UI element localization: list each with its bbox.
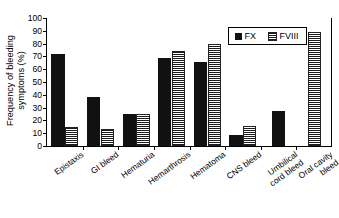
y-axis-tick: [43, 69, 47, 70]
legend: FX FVIII: [228, 27, 307, 45]
x-axis-label-line: Hematoma: [189, 150, 228, 182]
y-axis-tick: [43, 56, 47, 57]
x-axis-label-line: CNS bleed: [225, 150, 263, 182]
bar-fx-6: [272, 111, 285, 146]
x-axis-label-0: Epistaxis: [53, 150, 86, 177]
y-axis-tick: [43, 108, 47, 109]
bar-fviii-1: [101, 129, 114, 146]
y-axis-tick-label: 70: [32, 51, 42, 61]
x-axis-label-line: GI bleed: [90, 150, 121, 176]
bar-fx-1: [87, 97, 100, 146]
x-axis-label-5: CNS bleed: [225, 150, 263, 182]
x-axis-tick: [154, 146, 155, 150]
y-axis-tick-label: 10: [32, 128, 42, 138]
y-axis-title: Frequency of bleeding symptoms (%): [0, 0, 30, 160]
legend-label-fx: FX: [245, 31, 257, 41]
y-axis-tick-label: 80: [32, 39, 42, 49]
x-axis-label-6: Umbilicalcord bleed: [262, 150, 305, 189]
bar-fviii-2: [136, 114, 149, 146]
x-axis-label-4: Hematoma: [189, 150, 228, 182]
y-axis-tick: [43, 18, 47, 19]
y-axis-tick-label: 90: [32, 26, 42, 36]
checkerboard-swatch-icon: [268, 32, 277, 41]
y-axis-tick: [43, 133, 47, 134]
bar-fx-2: [123, 114, 136, 146]
solid-black-swatch-icon: [235, 33, 242, 40]
x-axis-tick: [118, 146, 119, 150]
x-axis-tick: [296, 146, 297, 150]
x-axis-label-7: Oral cavitybleed: [297, 150, 339, 189]
bar-chart: Frequency of bleeding symptoms (%) 01020…: [0, 0, 339, 218]
bar-fviii-7: [308, 32, 321, 146]
y-axis-tick-label: 100: [28, 13, 42, 23]
bar-fx-3: [158, 58, 171, 146]
bar-fviii-4: [208, 44, 221, 146]
y-axis-title-line-2: symptoms (%): [15, 35, 26, 126]
y-axis-tick-label: 60: [32, 64, 42, 74]
bar-fx-0: [51, 54, 64, 146]
bar-fviii-0: [65, 127, 78, 146]
y-axis-tick: [43, 120, 47, 121]
y-axis-tick: [43, 44, 47, 45]
x-axis-tick: [261, 146, 262, 150]
y-axis-tick-label: 20: [32, 115, 42, 125]
x-axis-tick: [225, 146, 226, 150]
x-axis-tick: [190, 146, 191, 150]
legend-entry-fx: FX: [235, 31, 256, 41]
bar-fviii-3: [172, 51, 185, 146]
bar-fx-5: [229, 135, 242, 146]
y-axis-tick: [43, 95, 47, 96]
bar-fx-4: [194, 62, 207, 146]
y-axis-title-line-1: Frequency of bleeding: [5, 35, 16, 126]
y-axis-tick-label: 40: [32, 90, 42, 100]
y-axis-tick: [43, 31, 47, 32]
legend-label-fviii: FVIII: [280, 31, 299, 41]
x-axis-label-line: Epistaxis: [53, 150, 86, 177]
y-axis-tick: [43, 82, 47, 83]
y-axis-tick-label: 30: [32, 103, 42, 113]
y-axis-tick-label: 0: [37, 141, 42, 151]
x-axis-label-1: GI bleed: [90, 150, 121, 176]
y-axis-tick: [43, 146, 47, 147]
x-axis-tick: [83, 146, 84, 150]
legend-entry-fviii: FVIII: [268, 31, 299, 41]
plot-right-boundary: [331, 18, 332, 146]
bar-fviii-5: [243, 126, 256, 146]
y-axis-tick-label: 50: [32, 77, 42, 87]
